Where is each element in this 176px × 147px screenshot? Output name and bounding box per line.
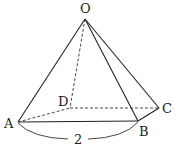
edge-OA — [18, 19, 85, 122]
vertex-label-B: B — [139, 124, 149, 139]
vertex-label-C: C — [162, 101, 172, 116]
edge-length-label: 2 — [74, 132, 82, 147]
measure-brace-right — [88, 122, 138, 139]
edge-OD-hidden — [70, 19, 85, 108]
vertex-label-O: O — [80, 1, 91, 16]
pyramid-diagram: O A B C D 2 — [0, 0, 176, 147]
edge-OC — [85, 19, 159, 108]
vertex-label-D: D — [58, 94, 68, 109]
measure-brace-left — [18, 123, 68, 139]
edge-BC — [138, 108, 159, 121]
edge-AB — [18, 121, 138, 122]
edge-OB — [85, 19, 138, 121]
vertex-label-A: A — [3, 116, 14, 131]
